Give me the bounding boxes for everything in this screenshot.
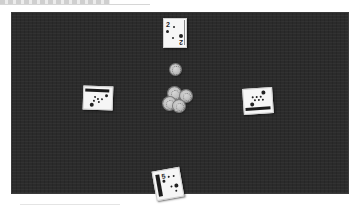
club-icon bbox=[94, 96, 96, 98]
club-icon bbox=[93, 100, 95, 102]
card-rank: 2 bbox=[166, 21, 170, 28]
spade-icon bbox=[256, 96, 258, 98]
spade-icon bbox=[170, 185, 172, 187]
game-table: 2 2 5 bbox=[12, 13, 348, 193]
spade-icon bbox=[174, 183, 179, 188]
club-icon bbox=[90, 103, 94, 107]
card-rank-bottom: 2 bbox=[179, 39, 183, 46]
spade-icon bbox=[250, 102, 254, 106]
footer-divider bbox=[20, 204, 120, 205]
club-icon bbox=[97, 98, 99, 100]
spade-icon bbox=[260, 96, 262, 98]
spade-icon bbox=[172, 37, 174, 39]
title-divider bbox=[0, 4, 150, 5]
spade-icon bbox=[252, 96, 254, 98]
spade-icon bbox=[162, 179, 165, 182]
club-icon bbox=[98, 101, 100, 103]
card-right[interactable] bbox=[242, 87, 274, 115]
card-top[interactable]: 2 2 bbox=[163, 18, 187, 48]
club-icon bbox=[105, 94, 108, 97]
spade-icon bbox=[262, 99, 264, 101]
spade-icon bbox=[173, 175, 175, 177]
spade-icon bbox=[179, 34, 183, 38]
spade-icon bbox=[166, 30, 169, 33]
card-left[interactable] bbox=[83, 85, 114, 110]
card-stripe bbox=[245, 106, 270, 111]
card-edge bbox=[184, 20, 185, 45]
spade-icon bbox=[175, 190, 177, 192]
chip[interactable] bbox=[173, 100, 185, 112]
spade-icon bbox=[254, 99, 256, 101]
spade-icon bbox=[258, 99, 260, 101]
spade-icon bbox=[173, 26, 175, 28]
spade-icon bbox=[261, 90, 265, 94]
card-stripe bbox=[85, 89, 109, 93]
chip[interactable] bbox=[170, 64, 181, 75]
club-icon bbox=[101, 98, 103, 100]
card-bottom[interactable]: 5 bbox=[152, 167, 185, 201]
spade-icon bbox=[168, 176, 170, 178]
